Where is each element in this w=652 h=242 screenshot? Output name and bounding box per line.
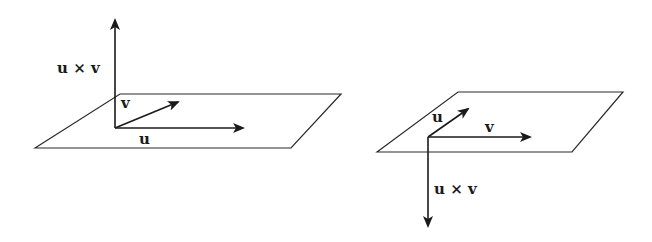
- left-cross-label: u × v: [57, 59, 101, 77]
- right-v-label: v: [484, 118, 495, 136]
- left-diagram: u × v v u: [35, 20, 341, 148]
- cross-product-figure: u × v v u u v u × v: [0, 0, 652, 242]
- left-plane: [35, 94, 341, 148]
- right-plane: [377, 92, 623, 152]
- left-v-label: v: [120, 94, 131, 112]
- right-diagram: u v u × v: [377, 92, 623, 226]
- left-u-label: u: [139, 130, 150, 148]
- right-u-label: u: [432, 108, 443, 126]
- right-cross-label: u × v: [434, 180, 478, 198]
